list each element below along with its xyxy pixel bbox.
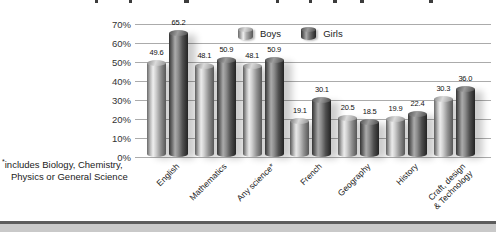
bar-boys-mathematics — [195, 66, 214, 157]
y-axis-tick-label: 70% — [99, 20, 131, 30]
cropped-title-fragment — [276, 0, 279, 3]
cropped-title-fragment — [95, 0, 98, 3]
value-label-girls-english: 65.2 — [162, 19, 196, 27]
cropped-title-fragment — [129, 0, 132, 3]
x-axis-label-any-science: Any science* — [235, 162, 277, 204]
bar-boys-craft-design-technology — [434, 99, 453, 157]
x-axis-label-geography: Geography — [336, 162, 373, 199]
legend-item-boys: Boys — [238, 26, 281, 40]
bar-boys-history — [386, 119, 405, 157]
x-axis-label-history: History — [395, 162, 421, 188]
value-label-girls-history: 22.4 — [401, 100, 435, 108]
value-label-girls-craft-design-technology: 36.0 — [448, 75, 482, 83]
cropped-title-fragment — [184, 0, 189, 3]
bar-boys-geography — [338, 118, 357, 157]
cropped-title-fragment — [309, 0, 312, 3]
value-label-boys-french: 19.1 — [283, 107, 317, 115]
y-axis-tick-label: 10% — [99, 134, 131, 144]
gridline-0 — [135, 157, 491, 158]
cropped-title-fragment — [429, 0, 433, 3]
footnote-line2: Physics or General Science — [2, 171, 128, 183]
bar-boys-any-science — [243, 66, 262, 157]
boys-cylinder-icon — [238, 29, 253, 40]
footnote-line1: *includes Biology, Chemistry, — [2, 159, 123, 170]
bar-girls-mathematics — [217, 60, 236, 157]
x-axis-label-english: English — [155, 162, 182, 189]
bar-girls-any-science — [265, 60, 284, 157]
value-label-girls-french: 30.1 — [305, 86, 339, 94]
page-bottom-rule — [0, 221, 496, 232]
gridline-40 — [135, 81, 491, 82]
y-axis-tick-label: 40% — [99, 77, 131, 87]
x-axis-label-craft-design-technology: Craft, design & Technology — [425, 162, 475, 212]
legend-item-girls: Girls — [301, 26, 343, 40]
x-axis-label-french: French — [299, 162, 325, 188]
value-label-girls-any-science: 50.9 — [257, 46, 291, 54]
footnote: *includes Biology, Chemistry, Physics or… — [2, 158, 128, 183]
bar-boys-english — [147, 63, 166, 157]
chart-screenshot: 70%60%50%40%30%20%10%0%49.665.2English48… — [0, 0, 496, 232]
y-axis-tick-label: 60% — [99, 39, 131, 49]
chart-legend: Boys Girls — [238, 26, 343, 40]
legend-label-girls: Girls — [323, 28, 343, 39]
x-axis-label-mathematics: Mathematics — [188, 162, 229, 203]
value-label-boys-english: 49.6 — [140, 49, 174, 57]
cropped-title-fragment — [333, 0, 337, 3]
bar-girls-craft-design-technology — [456, 89, 475, 157]
value-label-boys-craft-design-technology: 30.3 — [426, 85, 460, 93]
cropped-title-fragment — [360, 0, 364, 3]
gridline-50 — [135, 62, 491, 63]
bar-boys-french — [290, 121, 309, 157]
legend-label-boys: Boys — [260, 28, 281, 39]
gridline-60 — [135, 43, 491, 44]
girls-cylinder-icon — [301, 29, 316, 40]
bar-girls-geography — [360, 122, 379, 157]
y-axis-tick-label: 50% — [99, 58, 131, 68]
y-axis-tick-label: 20% — [99, 115, 131, 125]
bar-girls-history — [408, 114, 427, 157]
y-axis-tick-label: 30% — [99, 96, 131, 106]
